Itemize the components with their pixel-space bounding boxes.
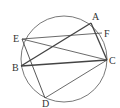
segment-DC [45, 60, 107, 98]
segments [21, 23, 107, 98]
segment-EF [22, 33, 102, 39]
label-D: D [42, 98, 49, 108]
label-E: E [13, 33, 19, 44]
point-labels: A F C E B D [12, 11, 116, 108]
segment-AB [21, 23, 91, 66]
label-B: B [12, 62, 19, 73]
segment-BC [21, 60, 107, 66]
label-F: F [104, 28, 110, 39]
geometry-diagram: A F C E B D [0, 0, 120, 108]
label-A: A [92, 11, 100, 22]
label-C: C [109, 55, 116, 66]
